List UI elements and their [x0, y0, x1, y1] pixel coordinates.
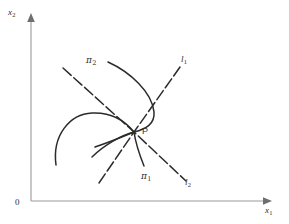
y-axis-arrowhead	[27, 13, 35, 22]
curve-label-pi2: π2	[86, 56, 96, 65]
x-axis-arrowhead	[263, 197, 272, 205]
curve-label-l2: l2	[185, 178, 191, 187]
x-axis-label: x1	[265, 206, 272, 215]
figure-canvas: x2 x1 0 P π2 π1 l1 l2	[0, 0, 289, 224]
y-axis-label: x2	[8, 8, 15, 17]
curve-label-pi1: π1	[141, 172, 151, 181]
point-p-label: P	[142, 127, 148, 136]
curve-label-l1: l1	[181, 55, 187, 64]
curve-arc	[55, 113, 134, 165]
origin-label: 0	[15, 198, 20, 207]
curves-group	[55, 62, 186, 183]
diagram-svg	[0, 0, 289, 224]
